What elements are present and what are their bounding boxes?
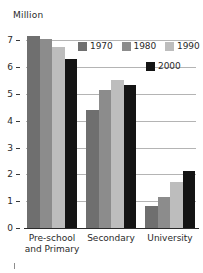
bar [65,59,78,228]
x-axis-line [24,228,199,229]
legend-label: 1980 [134,41,157,51]
legend-swatch-icon [146,62,155,71]
y-axis-tick-label: 7 [0,35,13,45]
legend-swatch-icon [78,42,87,51]
legend-entry[interactable]: 1970 [78,41,113,51]
legend-entry[interactable]: 1980 [122,41,157,51]
y-axis-tick-mark [16,67,20,68]
y-axis-tick-label: 3 [0,143,13,153]
legend-row-secondary: 2000 [146,61,181,71]
x-axis-category-label: University [130,233,203,244]
y-axis-tick-mark [16,121,20,122]
y-axis-tick-mark [16,174,20,175]
y-axis-tick-label: 4 [0,116,13,126]
bar [27,36,40,228]
bar-chart-figure: Million 01234567 Pre-school and PrimaryS… [0,0,203,273]
bar [52,47,65,228]
y-axis-tick-mark [16,40,20,41]
legend-label: 1990 [177,41,200,51]
bar [40,39,53,228]
y-axis-tick-label: 6 [0,62,13,72]
y-axis-tick-label: 5 [0,89,13,99]
y-axis-tick-label: 0 [0,223,13,233]
bar [183,171,196,228]
legend-entry[interactable]: 1990 [165,41,200,51]
legend-row-primary: 197019801990 [78,41,200,51]
y-axis-tick-mark [16,228,20,229]
bar [158,197,171,228]
bar [111,80,124,228]
legend-swatch-icon [165,42,174,51]
legend-entry[interactable]: 2000 [146,61,181,71]
y-axis-tick-mark [16,201,20,202]
bar [86,110,99,228]
bar [124,85,137,228]
y-axis-tick-mark [16,148,20,149]
bar [170,182,183,228]
legend-label: 2000 [158,61,181,71]
y-axis-tick-label: 2 [0,169,13,179]
y-axis-unit-label: Million [13,10,43,20]
bar [99,90,112,228]
page-scan-mark [14,263,15,269]
legend-swatch-icon [122,42,131,51]
legend-label: 1970 [90,41,113,51]
y-axis-tick-mark [16,94,20,95]
y-axis-tick-label: 1 [0,196,13,206]
bar [145,206,158,228]
